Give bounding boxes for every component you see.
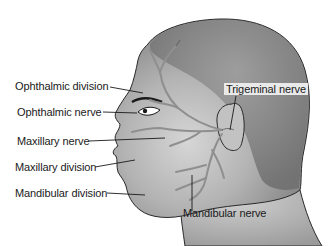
label-maxillary-nerve: Maxillary nerve <box>17 135 89 147</box>
label-ophthalmic-nerve: Ophthalmic nerve <box>17 106 102 118</box>
label-maxillary-division: Maxillary division <box>15 161 96 173</box>
head-illustration <box>0 0 329 246</box>
label-mandibular-division: Mandibular division <box>15 187 107 199</box>
label-trigeminal-nerve: Trigeminal nerve <box>224 83 308 95</box>
diagram-canvas: Ophthalmic division Ophthalmic nerve Max… <box>0 0 329 246</box>
label-mandibular-nerve: Mandibular nerve <box>183 207 266 219</box>
label-ophthalmic-division: Ophthalmic division <box>15 80 108 92</box>
